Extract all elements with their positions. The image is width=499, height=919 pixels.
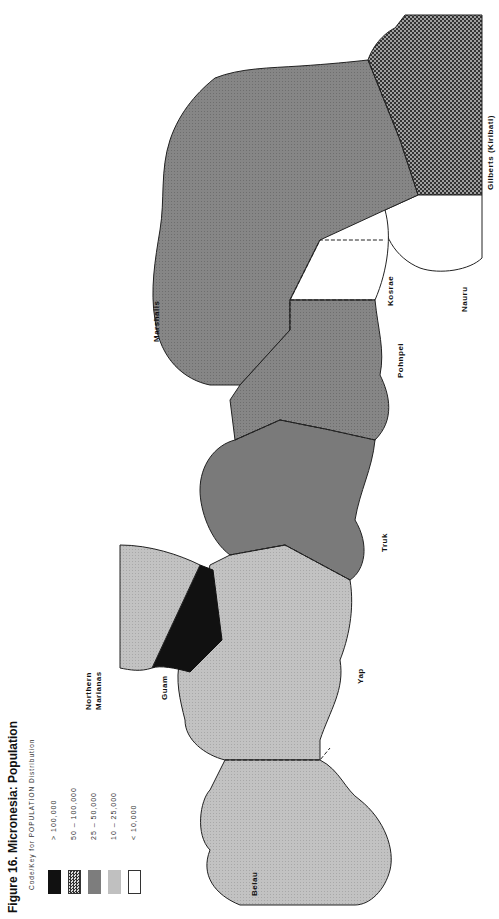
region-belau (201, 760, 392, 905)
figure-title: Figure 16. Micronesia: Population (6, 721, 20, 913)
label-yap: Yap (356, 668, 365, 684)
label-kosrae: Kosrae (386, 276, 395, 306)
label-marshalls: Marshalls (152, 301, 161, 342)
legend-item-3: 25 – 50,000 (90, 792, 97, 840)
region-nauru (384, 195, 482, 271)
legend-swatch-dark-gray (88, 870, 101, 894)
legend-swatch-black (48, 870, 61, 894)
legend-swatch-light-gray (108, 870, 121, 894)
label-belau: Belau (250, 872, 259, 896)
legend-swatch-white (128, 870, 141, 894)
label-nauru: Nauru (460, 286, 469, 312)
label-truk: Truk (380, 533, 389, 552)
legend-item-2: 50 – 100,000 (70, 787, 77, 840)
legend-item-1: > 100,000 (50, 800, 57, 840)
label-guam: Guam (160, 675, 169, 700)
population-cartogram (0, 0, 499, 919)
label-northern: Northern (84, 672, 93, 710)
legend-swatch-crosshatch (68, 870, 81, 894)
legend-item-5: < 10,000 (130, 805, 137, 840)
label-pohnpei: Pohnpei (396, 343, 405, 378)
label-marianas: Marianas (94, 671, 103, 710)
label-gilberts: Gilberts (Kiribati) (486, 115, 495, 190)
legend-item-4: 10 – 25,000 (110, 792, 117, 840)
legend-title: Code/Key for POPULATION Distribution (28, 739, 35, 890)
